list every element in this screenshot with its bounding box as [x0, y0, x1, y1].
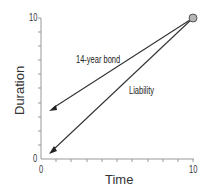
x-tick-10: 10 — [189, 164, 197, 175]
y-axis-title: Duration — [12, 66, 27, 115]
liability-arrow-line — [53, 18, 193, 150]
x-tick-0: 0 — [39, 164, 43, 175]
bond-label: 14-year bond — [76, 54, 120, 65]
bond-arrowhead — [49, 105, 57, 111]
chart-plot — [0, 0, 209, 193]
y-tick-0: 0 — [33, 153, 37, 164]
y-tick-10: 10 — [29, 12, 37, 23]
x-axis-title: Time — [105, 172, 133, 187]
liability-label: Liability — [129, 85, 154, 96]
start-point-marker — [189, 14, 197, 22]
bond-arrow-line — [53, 18, 193, 108]
